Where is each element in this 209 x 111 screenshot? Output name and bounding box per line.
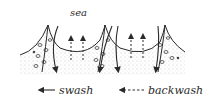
legend-swash-label: swash (59, 84, 93, 97)
sea-label: sea (70, 7, 87, 18)
legend-backwash-label: backwash (148, 84, 203, 97)
beach-cusp-diagram: sea swash backwash (0, 0, 209, 111)
